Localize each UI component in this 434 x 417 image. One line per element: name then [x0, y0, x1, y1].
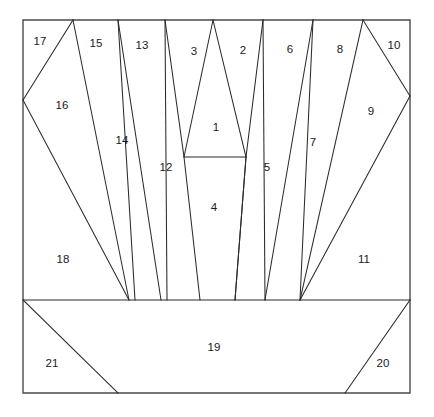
region-label-10: 10 [388, 39, 401, 51]
region-label-3: 3 [191, 45, 197, 57]
region-label-18: 18 [57, 253, 70, 265]
region-label-16: 16 [56, 99, 69, 111]
region-label-1: 1 [213, 121, 219, 133]
region-label-2: 2 [240, 44, 246, 56]
region-label-8: 8 [337, 43, 343, 55]
region-label-14: 14 [116, 134, 129, 146]
region-label-13: 13 [136, 39, 149, 51]
region-label-7: 7 [310, 136, 316, 148]
region-label-20: 20 [377, 357, 390, 369]
region-label-6: 6 [287, 43, 293, 55]
polygon-partition-figure: 123456789101112131415161718192021 [0, 0, 434, 417]
region-label-12: 12 [160, 161, 173, 173]
region-label-11: 11 [358, 253, 370, 265]
diagram-root: 123456789101112131415161718192021 [0, 0, 434, 417]
region-label-9: 9 [368, 105, 374, 117]
region-label-4: 4 [211, 201, 218, 213]
region-label-19: 19 [208, 341, 221, 353]
region-label-15: 15 [90, 37, 103, 49]
region-label-5: 5 [264, 161, 270, 173]
region-label-21: 21 [46, 357, 59, 369]
region-label-17: 17 [34, 35, 47, 47]
